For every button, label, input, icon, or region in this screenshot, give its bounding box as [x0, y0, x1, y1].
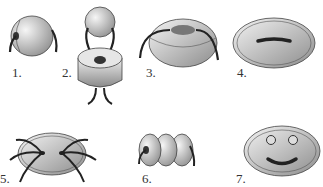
figure-4-oval-slotted-button: [233, 18, 315, 68]
figure-6-stacked-discs: [139, 134, 194, 166]
figure-1-ball-button: [10, 16, 57, 56]
button-types-diagram: [0, 0, 323, 187]
label-4: 4.: [237, 66, 247, 79]
figure-2-shank-button: [78, 7, 122, 104]
label-1: 1.: [12, 66, 22, 79]
figure-3-domed-button: [140, 19, 218, 67]
label-7: 7.: [236, 172, 246, 185]
label-6: 6.: [142, 172, 152, 185]
figure-5-cross-thread-button: [10, 133, 96, 182]
figure-7-smiley-button: [244, 126, 320, 176]
label-3: 3.: [146, 66, 156, 79]
label-2: 2.: [62, 66, 72, 79]
label-5: 5.: [0, 172, 10, 185]
